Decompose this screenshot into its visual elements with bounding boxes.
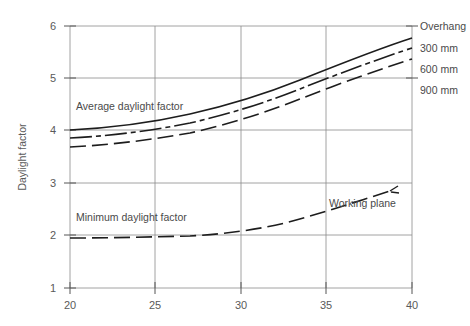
x-tick-label-25: 25 — [149, 299, 161, 311]
legend: Overhang 300 mm 600 mm 900 mm — [420, 20, 466, 96]
x-tick-label-20: 20 — [64, 299, 76, 311]
x-tick-label-40: 40 — [406, 299, 418, 311]
x-tick-label-35: 35 — [320, 299, 332, 311]
working-plane-pointer-tail — [391, 192, 399, 193]
legend-entry-600mm: 600 mm — [420, 63, 458, 75]
legend-title: Overhang — [420, 20, 466, 32]
y-axis-tick-labels: 6 5 4 3 2 1 — [50, 20, 56, 294]
y-axis-title: Daylight factor — [16, 123, 28, 191]
legend-entry-900mm: 900 mm — [420, 84, 458, 96]
chart-figure: 6 5 4 3 2 1 20 25 30 35 40 Daylight fact… — [0, 0, 470, 326]
y-tick-label-2: 2 — [50, 229, 56, 241]
x-tick-label-30: 30 — [235, 299, 247, 311]
y-tick-label-5: 5 — [50, 72, 56, 84]
y-tick-label-6: 6 — [50, 20, 56, 32]
annotation-average-daylight-factor: Average daylight factor — [76, 100, 184, 112]
annotation-working-plane: Working plane — [329, 197, 396, 209]
x-axis-tick-labels: 20 25 30 35 40 — [64, 299, 418, 311]
daylight-factor-chart: 6 5 4 3 2 1 20 25 30 35 40 Daylight fact… — [0, 0, 470, 326]
working-plane-pointer — [390, 186, 398, 191]
legend-entry-300mm: 300 mm — [420, 42, 458, 54]
y-tick-label-4: 4 — [50, 124, 56, 136]
y-tick-label-1: 1 — [50, 282, 56, 294]
y-tick-label-3: 3 — [50, 177, 56, 189]
annotation-minimum-daylight-factor: Minimum daylight factor — [76, 211, 187, 223]
